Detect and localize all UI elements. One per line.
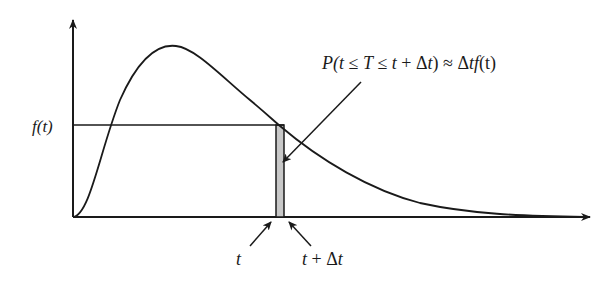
tick-label-t-plus-dt: t + Δt: [302, 249, 344, 269]
annotation-label: P(t ≤ T ≤ t + Δt) ≈ Δtf(t): [321, 53, 496, 74]
tick-label-t: t: [236, 249, 242, 269]
y-axis-label: f(t): [32, 117, 53, 136]
t-arrow: [250, 222, 271, 246]
probability-bar: [276, 125, 284, 217]
annotation-arrow: [283, 82, 361, 162]
t-dt-arrow: [289, 222, 311, 246]
density-diagram: f(t) P(t ≤ T ≤ t + Δt) ≈ Δtf(t) t t + Δt: [0, 0, 612, 287]
